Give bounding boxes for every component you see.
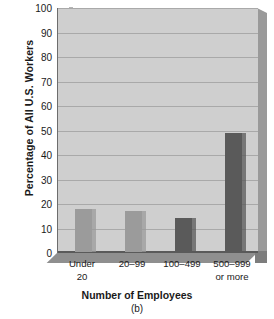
y-tick-label: 30 [16, 174, 52, 185]
bar-front-face [75, 209, 92, 252]
bar-front-face [175, 218, 192, 252]
gridline [58, 131, 258, 132]
gridline [58, 33, 258, 34]
x-tick-label: 100–499 [157, 258, 207, 271]
x-tick-label: 20–99 [107, 258, 157, 271]
gridline [58, 82, 258, 83]
figure-caption: (b) [0, 303, 274, 314]
y-tick-label: 80 [16, 52, 52, 63]
bar-chart-figure: Percentage of All U.S. Workers 010203040… [0, 0, 274, 319]
plot-right-face [257, 8, 267, 260]
bar [125, 211, 142, 252]
bar-front-face [125, 211, 142, 252]
x-tick-label-line1: 20–99 [119, 258, 146, 269]
bar-side-face [242, 133, 246, 252]
bar-side-face [192, 218, 196, 252]
x-tick-label: 500–999or more [207, 258, 257, 283]
y-tick-label: 20 [16, 199, 52, 210]
y-tick-label: 50 [16, 125, 52, 136]
bar [175, 218, 192, 252]
plot-front-face [57, 8, 258, 253]
bar [225, 133, 242, 252]
y-tick-label: 90 [16, 27, 52, 38]
y-axis-ticks: 0102030405060708090100 [16, 0, 52, 260]
y-tick-label: 10 [16, 223, 52, 234]
bar-side-face [92, 209, 96, 252]
gridline [58, 57, 258, 58]
x-tick-label: Under20 [57, 258, 107, 283]
y-tick-label: 40 [16, 150, 52, 161]
y-tick-label: 70 [16, 76, 52, 87]
y-tick-label: 60 [16, 101, 52, 112]
x-tick-label-line1: 500–999 [213, 258, 250, 269]
x-tick-label-line2: or more [207, 271, 257, 284]
x-tick-label-line1: Under [69, 258, 95, 269]
x-tick-label-line1: 100–499 [163, 258, 200, 269]
bar-front-face [225, 133, 242, 252]
gridline [58, 8, 258, 9]
x-axis-title: Number of Employees [0, 289, 274, 301]
bar-side-face [142, 211, 146, 252]
gridline [58, 106, 258, 107]
x-tick-label-line2: 20 [57, 271, 107, 284]
y-tick-label: 100 [16, 3, 52, 14]
plot-area-3d [57, 8, 274, 268]
bar [75, 209, 92, 252]
y-tick-label: 0 [16, 248, 52, 259]
